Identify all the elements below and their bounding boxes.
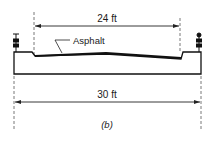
railing-post-left [13,34,19,52]
bridge-cross-section-diagram: 24 ft Asphalt 30 ft (b) [0,0,213,141]
asphalt-leader-line [55,40,70,53]
arrowhead-left-icon [35,24,41,28]
arrowhead-right-icon [194,100,200,104]
figure-caption: (b) [101,119,113,130]
dimension-label-30ft: 30 ft [97,89,117,100]
dimension-label-24ft: 24 ft [97,13,117,24]
arrowhead-left-icon [15,100,21,104]
railing-post-right [197,33,202,52]
arrowhead-right-icon [173,24,179,28]
asphalt-label: Asphalt [73,35,105,46]
